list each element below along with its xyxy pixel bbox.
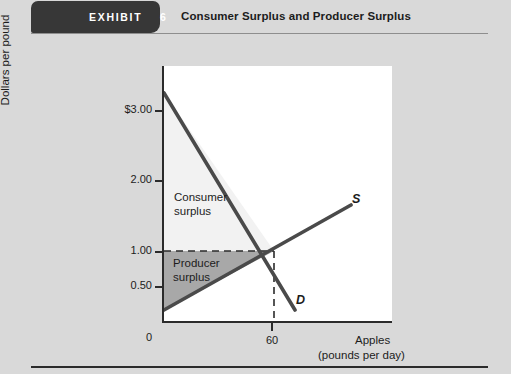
origin-label: 0 xyxy=(90,331,152,343)
x-axis-title-line1: Apples xyxy=(355,334,390,346)
producer-surplus-label-line1: Producer xyxy=(173,256,220,270)
producer-surplus-label: Producer surplus xyxy=(173,256,220,284)
footer-divider xyxy=(31,366,488,368)
x-tick-label-60: 60 xyxy=(256,334,288,346)
page-title: Consumer Surplus and Producer Surplus xyxy=(181,10,411,22)
header-divider xyxy=(31,33,488,34)
supply-curve-label: S xyxy=(352,192,360,206)
exhibit-number-label: 6 xyxy=(160,11,166,23)
consumer-surplus-label: Consumer surplus xyxy=(174,190,227,218)
consumer-surplus-label-line2: surplus xyxy=(174,204,227,218)
consumer-surplus-region xyxy=(164,93,274,251)
exhibit-header: EXHIBIT 6 Consumer Surplus and Producer … xyxy=(0,0,511,36)
exhibit-word-label: EXHIBIT xyxy=(89,11,142,23)
consumer-surplus-label-line1: Consumer xyxy=(174,190,227,204)
y-tick-label-050: 0.50 xyxy=(90,279,152,291)
x-axis-title-line2: (pounds per day) xyxy=(318,349,405,361)
producer-surplus-label-line2: surplus xyxy=(173,270,220,284)
y-tick-label-100: 1.00 xyxy=(90,244,152,256)
y-tick-label-300: $3.00 xyxy=(90,103,152,115)
y-tick-label-200: 2.00 xyxy=(90,173,152,185)
y-axis-title: Dollars per pound xyxy=(0,0,11,140)
x-tick-mark-60 xyxy=(271,323,273,331)
exhibit-tab: EXHIBIT 6 xyxy=(31,1,160,33)
demand-curve-label: D xyxy=(296,293,305,307)
